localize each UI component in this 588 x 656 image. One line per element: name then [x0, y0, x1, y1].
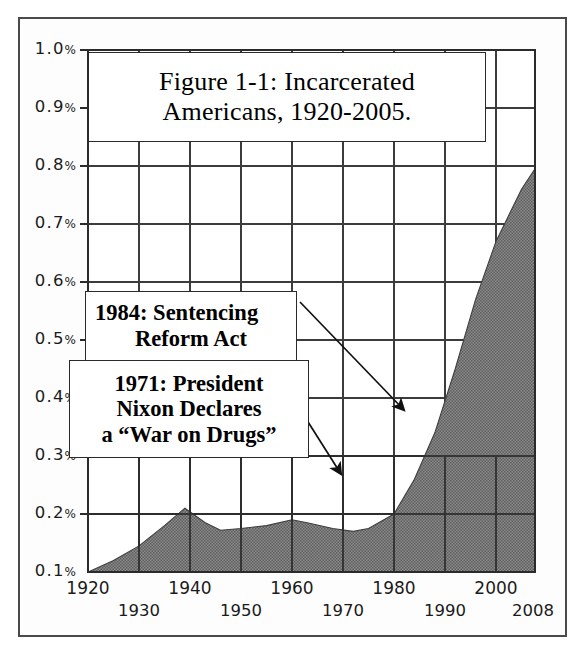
x-axis-tick-2008: 2008	[503, 601, 563, 620]
y-axis-tick-07: 0.7%	[12, 213, 76, 232]
y-axis-tick-05: 0.5%	[12, 329, 76, 348]
x-axis-tick-1970: 1970	[313, 601, 373, 620]
figure-title-callout: Figure 1-1: Incarcerated Americans, 1920…	[88, 52, 486, 142]
y-axis-tick-06: 0.6%	[12, 271, 76, 290]
annotation-sentencing-line-2: Reform Act	[135, 326, 247, 352]
annotation-sentencing-line-1: 1984: Sentencing	[86, 300, 296, 326]
y-axis-tick-03: 0.3%	[12, 445, 76, 464]
y-axis-tick-09: 0.9%	[12, 97, 76, 116]
x-axis-tick-1930: 1930	[109, 601, 169, 620]
figure-title-line-2: Americans, 1920-2005.	[163, 97, 412, 127]
y-axis-tick-08: 0.8%	[12, 155, 76, 174]
x-axis-tick-1960: 1960	[262, 578, 322, 598]
y-axis-tick-02: 0.2%	[12, 503, 76, 522]
x-axis-tick-1940: 1940	[160, 578, 220, 598]
annotation-callout-sentencing-reform: 1984: Sentencing Reform Act	[85, 291, 297, 361]
annotation-drugs-line-1: 1971: President	[115, 371, 264, 397]
figure-title-line-1: Figure 1-1: Incarcerated	[159, 67, 415, 97]
figure-root: 0.1%0.2%0.3%0.4%0.5%0.6%0.7%0.8%0.9%1.0%…	[0, 0, 588, 656]
y-axis-tick-10: 1.0%	[12, 39, 76, 58]
y-axis-tick-04: 0.4%	[12, 387, 76, 406]
x-axis-tick-2000: 2000	[466, 578, 526, 598]
x-axis-tick-1990: 1990	[415, 601, 475, 620]
annotation-drugs-line-3: a “War on Drugs”	[101, 422, 276, 448]
x-axis-tick-1920: 1920	[58, 578, 118, 598]
annotation-callout-war-on-drugs: 1971: President Nixon Declares a “War on…	[69, 360, 309, 458]
annotation-drugs-line-2: Nixon Declares	[116, 396, 261, 422]
x-axis-tick-1980: 1980	[364, 578, 424, 598]
x-axis-tick-1950: 1950	[211, 601, 271, 620]
